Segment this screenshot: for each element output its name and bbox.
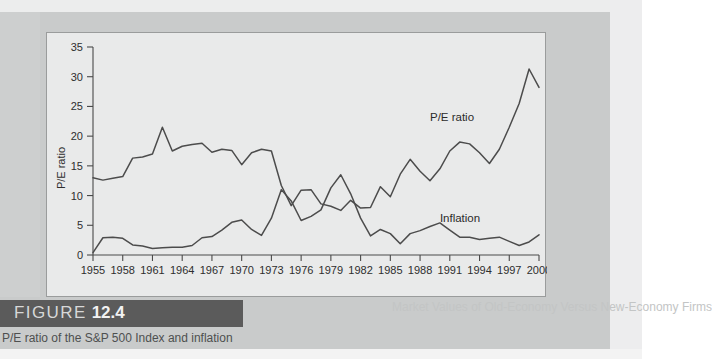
- x-tick-label: 1961: [140, 264, 164, 276]
- y-tick-label: 25: [71, 100, 83, 112]
- y-tick-label: 15: [71, 160, 83, 172]
- x-tick-label: 1997: [497, 264, 521, 276]
- x-tick-label: 1973: [259, 264, 283, 276]
- scan-edge-left: [0, 12, 40, 297]
- y-tick-label: 0: [77, 249, 83, 261]
- x-tick-label: 1964: [170, 264, 194, 276]
- x-tick-label: 1994: [467, 264, 491, 276]
- series-annotations: P/E ratioInflation: [430, 111, 480, 223]
- x-tick-label: 1967: [200, 264, 224, 276]
- x-tick-label: 1982: [348, 264, 372, 276]
- x-tick-label: 2000: [527, 264, 547, 276]
- y-tick-label: 10: [71, 190, 83, 202]
- y-tick-label: 30: [71, 71, 83, 83]
- y-axis: 05101520253035: [71, 41, 93, 261]
- figure-number: 12.4: [92, 303, 125, 322]
- data-series-group: [93, 69, 539, 253]
- chart-panel: 05101520253035 1955195819611964196719701…: [46, 32, 546, 297]
- y-tick-label: 5: [77, 219, 83, 231]
- x-tick-label: 1991: [438, 264, 462, 276]
- x-tick-label: 1976: [289, 264, 313, 276]
- series-line-p-e-ratio: [93, 69, 539, 210]
- pe-ratio-inflation-line-chart: 05101520253035 1955195819611964196719701…: [47, 33, 547, 298]
- x-tick-label: 1955: [81, 264, 105, 276]
- figure-banner-text: FIGURE12.4: [14, 303, 125, 323]
- y-tick-label: 20: [71, 130, 83, 142]
- x-tick-label: 1958: [110, 264, 134, 276]
- x-tick-label: 1979: [319, 264, 343, 276]
- x-tick-label: 1985: [378, 264, 402, 276]
- figure-caption: P/E ratio of the S&P 500 Index and infla…: [2, 331, 233, 345]
- x-axis: 1955195819611964196719701973197619791982…: [81, 255, 547, 276]
- scan-edge-bottom: [0, 349, 642, 359]
- series-label-p-e-ratio: P/E ratio: [430, 111, 474, 123]
- x-tick-label: 1970: [229, 264, 253, 276]
- series-label-inflation: Inflation: [440, 212, 480, 224]
- y-tick-label: 35: [71, 41, 83, 53]
- bleed-text-line-8: Market Values of Old-Economy Versus New-…: [392, 300, 712, 314]
- y-axis-title: P/E ratio: [55, 147, 67, 189]
- scan-edge-top: [0, 0, 642, 12]
- figure-word: FIGURE: [14, 303, 87, 322]
- x-tick-label: 1988: [408, 264, 432, 276]
